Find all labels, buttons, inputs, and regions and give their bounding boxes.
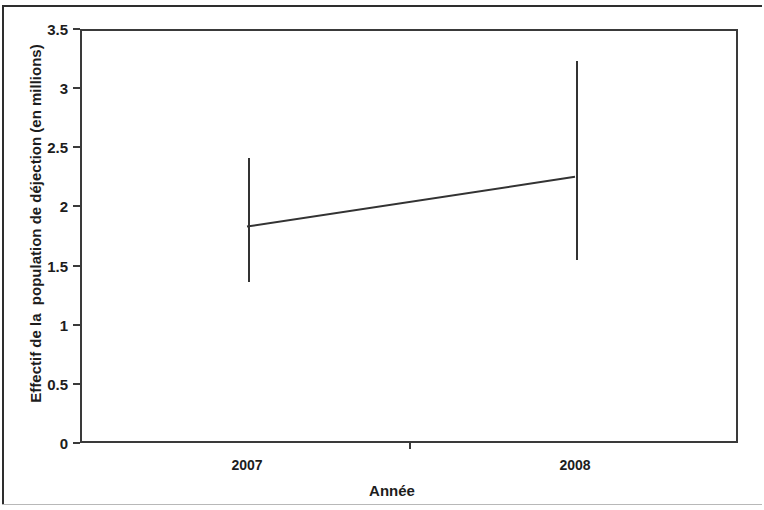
y-axis-tick-mark	[73, 442, 80, 444]
x-axis-tick-label: 2007	[231, 457, 262, 473]
plot-area	[80, 29, 738, 443]
error-bar	[248, 158, 250, 282]
y-axis-tick-label: 0	[6, 435, 68, 452]
error-bar	[576, 61, 578, 261]
x-axis-tick-label: 2008	[559, 457, 590, 473]
x-axis-title: Année	[0, 482, 764, 499]
y-axis-tick-mark	[73, 265, 80, 267]
y-axis-tick-mark	[73, 383, 80, 385]
chart-figure: 00.511.522.533.5 20072008 Année Effectif…	[0, 0, 764, 510]
y-axis-tick-mark	[73, 146, 80, 148]
y-axis-tick-mark	[73, 205, 80, 207]
scanned-figure-page: 00.511.522.533.5 20072008 Année Effectif…	[0, 0, 764, 510]
y-axis-tick-mark	[73, 324, 80, 326]
x-axis-tick-mark	[409, 442, 411, 449]
x-axis-title-text: Année	[369, 482, 415, 499]
y-axis-tick-mark	[73, 87, 80, 89]
y-axis-title: Effectif de la population de déjection (…	[27, 14, 44, 434]
y-axis-tick-mark	[73, 28, 80, 30]
